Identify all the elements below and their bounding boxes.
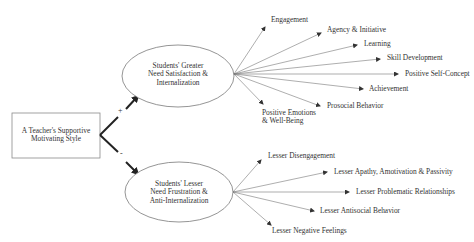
outcome-agency-initiative: Agency & Initiative: [327, 26, 386, 34]
source-node-label: A Teacher's Supportive Motivating Style: [12, 127, 100, 144]
negative-mediator-label: Students' Lesser Need Frustration & Anti…: [133, 180, 225, 205]
positive-mediator-label: Students' Greater Need Satisfaction & In…: [132, 62, 224, 87]
outcome-achievement: Achievement: [369, 85, 408, 93]
diagram-canvas: [0, 0, 474, 242]
outcome-lesser-antisocial-behavior: Lesser Antisocial Behavior: [320, 207, 400, 215]
outcome-positive-emotions: Positive Emotions & Well-Being: [262, 109, 316, 126]
outcome-lesser-apathy: Lesser Apathy, Amotivation & Passivity: [334, 168, 453, 176]
outcome-lesser-disengagement: Lesser Disengagement: [268, 152, 335, 160]
outcome-learning: Learning: [364, 40, 391, 48]
outcome-lesser-negative-feelings: Lesser Negative Feelings: [272, 227, 347, 235]
outcome-skill-development: Skill Development: [387, 54, 443, 62]
outcome-prosocial-behavior: Prosocial Behavior: [327, 102, 383, 110]
outcome-engagement: Engagement: [271, 16, 308, 24]
outcome-lesser-problematic-relationships: Lesser Problematic Relationships: [356, 188, 455, 196]
negative-sign: -: [120, 150, 123, 158]
positive-sign: +: [118, 107, 123, 115]
outcome-positive-self-concept: Positive Self-Concept: [405, 70, 470, 78]
